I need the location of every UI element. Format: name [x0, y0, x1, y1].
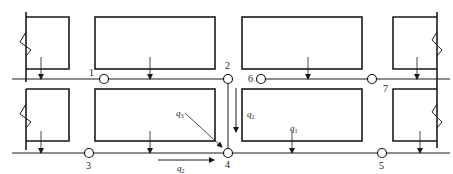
block-bottom-center-left: [95, 89, 215, 141]
node-label-3: 3: [86, 160, 91, 171]
node-5: [378, 149, 387, 158]
node-2: [224, 75, 233, 84]
node-4: [224, 149, 233, 158]
node-label-5: 5: [379, 160, 384, 171]
block-top-center-left: [95, 17, 215, 69]
block-bottom-center-right: [242, 89, 362, 141]
flow-label-q3: q3: [176, 108, 184, 119]
node-label-6: 6: [248, 73, 253, 84]
inflow-arrows: [41, 57, 420, 153]
node-7: [368, 75, 377, 84]
flow-label-q2-horizontal: q2: [177, 163, 185, 174]
block-top-center-right: [242, 17, 362, 69]
node-1: [100, 75, 109, 84]
flow-label-q2-vertical: q2: [247, 109, 255, 120]
node-label-2: 2: [225, 60, 230, 71]
block-top-right: [393, 12, 442, 148]
block-top-left: [20, 12, 69, 82]
node-label-7: 7: [383, 83, 388, 94]
node-6: [257, 75, 266, 84]
node-label-1: 1: [89, 67, 94, 78]
node-label-4: 4: [225, 159, 230, 170]
block-bottom-left: [20, 89, 69, 150]
flow-label-q1: q1: [290, 123, 298, 134]
flow-arrow-q3: [185, 113, 222, 147]
pipe-network-diagram: 1 2 3 4 5 6 7 q1 q2 q2 q3: [0, 0, 453, 174]
block-bottom-right: [393, 89, 442, 141]
node-3: [85, 149, 94, 158]
